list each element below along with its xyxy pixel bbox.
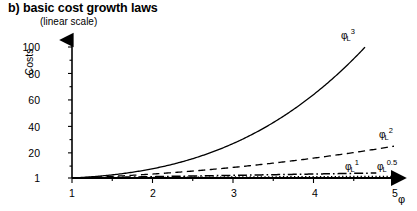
curve-phi-cubed [72, 47, 365, 178]
chart-figure: b) basic cost growth laws (linear scale)… [0, 0, 417, 211]
chart-subtitle: (linear scale) [40, 16, 97, 27]
y-tick-label-100: 100 [12, 41, 40, 53]
y-tick-label-20: 20 [12, 147, 40, 159]
x-tick-label-3: 3 [224, 187, 244, 199]
y-tick-label-40: 40 [12, 121, 40, 133]
curve-label-sqrt: φL0.5 [377, 162, 398, 172]
x-tick-label-1: 1 [62, 187, 82, 199]
y-tick-label-80: 80 [12, 68, 40, 80]
curve-label-cubic: φL3 [341, 31, 356, 41]
curve-label-cubic-sup: 3 [351, 27, 355, 36]
y-tick-label-60: 60 [12, 94, 40, 106]
x-tick-label-2: 2 [143, 187, 163, 199]
x-tick-label-4: 4 [305, 187, 325, 199]
curve-label-sqrt-sup: 0.5 [387, 158, 397, 167]
curve-label-quadratic: φL2 [379, 130, 394, 140]
y-tick-label-1: 1 [12, 172, 40, 184]
chart-title: b) basic cost growth laws [8, 1, 158, 15]
x-tick-label-5: 5 [385, 187, 405, 199]
curve-label-linear-sup: 1 [355, 158, 359, 167]
curve-label-quadratic-sup: 2 [389, 126, 393, 135]
curve-label-linear: φL1 [345, 162, 360, 172]
